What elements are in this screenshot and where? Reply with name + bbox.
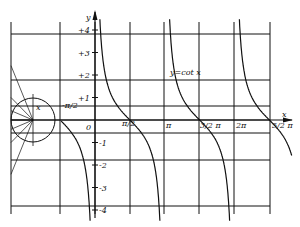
x-tick-label: 0 bbox=[86, 123, 91, 132]
x-tick-label: π bbox=[165, 121, 172, 130]
cot-chart: x +4+3+2+1-1-2-3-4-π/20π/2π3/2 π2π5/2 π … bbox=[0, 0, 300, 227]
x-tick-label: 3/2 π bbox=[200, 121, 221, 130]
y-tick-label: -4 bbox=[99, 206, 107, 215]
y-tick-label: -1 bbox=[99, 139, 107, 148]
grid-lines bbox=[11, 22, 270, 214]
x-tick-label: -π/2 bbox=[62, 101, 78, 110]
axes bbox=[11, 10, 293, 218]
x-tick-label: 5/2 π bbox=[272, 121, 293, 130]
chart-title: y=cot x bbox=[169, 68, 201, 77]
y-tick-label: +2 bbox=[78, 71, 90, 80]
cot-branch bbox=[239, 19, 291, 155]
x-tick-label: π/2 bbox=[121, 119, 135, 128]
y-axis-label: y bbox=[85, 13, 91, 22]
y-tick-label: +1 bbox=[78, 94, 90, 103]
x-tick-label: 2π bbox=[235, 121, 247, 130]
y-tick-label: -2 bbox=[99, 161, 107, 170]
y-tick-label: -3 bbox=[99, 184, 107, 193]
x-axis-label: x bbox=[282, 110, 287, 119]
y-axis-arrow-icon bbox=[93, 10, 98, 20]
y-tick-label: +4 bbox=[78, 26, 90, 35]
angle-mark: x bbox=[36, 103, 41, 112]
y-tick-label: +3 bbox=[78, 49, 90, 58]
